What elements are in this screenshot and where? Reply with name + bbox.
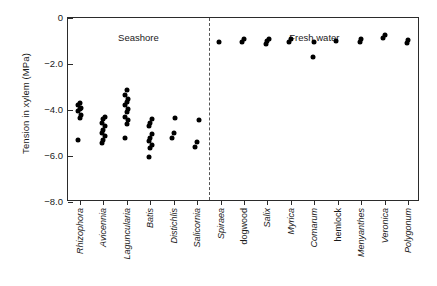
data-point: [149, 117, 154, 122]
data-point: [406, 37, 411, 42]
y-tick: [68, 110, 73, 111]
data-point: [173, 116, 178, 121]
x-tick: [314, 200, 315, 205]
data-point: [170, 135, 175, 140]
data-point: [76, 137, 81, 142]
data-point: [102, 114, 107, 119]
y-tick-label: −4.0: [44, 105, 63, 115]
data-point: [196, 118, 201, 123]
x-tick-label-salix: Salix: [263, 208, 272, 228]
x-tick-label-avicennia: Avicennia: [99, 208, 108, 247]
group-divider: [209, 18, 210, 200]
y-tick-label: 0: [58, 13, 63, 23]
y-tick: [68, 202, 73, 203]
y-axis-title: Tension in xylem (MPa): [20, 9, 31, 199]
y-tick: [68, 156, 73, 157]
x-tick: [244, 200, 245, 205]
data-point: [77, 101, 82, 106]
x-tick: [221, 200, 222, 205]
plot-area: 0−2.0−4.0−6.0−8.0 RhizophoraAvicenniaLag…: [67, 17, 419, 201]
x-tick-label-myrica: Myrica: [286, 208, 295, 235]
data-point: [312, 40, 317, 45]
x-tick-label-veronica: Veronica: [380, 208, 389, 243]
x-tick: [127, 200, 128, 205]
x-tick: [267, 200, 268, 205]
x-tick-label-dogwood: dogwood: [240, 208, 249, 245]
x-tick: [80, 200, 81, 205]
x-tick: [361, 200, 362, 205]
x-tick-label-polygonum: Polygonum: [404, 208, 413, 253]
data-point: [123, 114, 128, 119]
x-tick: [174, 200, 175, 205]
data-point: [171, 131, 176, 136]
data-point: [288, 36, 293, 41]
data-point: [310, 55, 315, 60]
y-tick: [68, 18, 73, 19]
y-tick-label: −6.0: [44, 151, 63, 161]
y-tick-label: −8.0: [44, 197, 63, 207]
data-point: [193, 144, 198, 149]
x-tick: [385, 200, 386, 205]
data-point: [334, 39, 339, 44]
y-tick-label: −2.0: [44, 59, 63, 69]
data-point: [359, 36, 364, 41]
data-point: [123, 93, 128, 98]
data-point: [123, 135, 128, 140]
data-point: [382, 32, 387, 37]
x-tick: [103, 200, 104, 205]
x-tick-label-comarum: Comarum: [310, 208, 319, 248]
x-tick-label-batis: Batis: [146, 208, 155, 228]
x-tick: [291, 200, 292, 205]
x-tick-label-hemlock: hemlock: [333, 208, 342, 242]
x-tick-label-distichlis: Distichlis: [169, 208, 178, 244]
data-point: [216, 40, 221, 45]
x-tick-label-laguncularia: Laguncularia: [122, 208, 131, 260]
x-tick: [150, 200, 151, 205]
data-point: [149, 132, 154, 137]
data-point: [146, 155, 151, 160]
x-tick-label-rhizophora: Rhizophora: [75, 208, 84, 254]
x-tick-label-menyanthes: Menyanthes: [357, 208, 366, 257]
group-header-seashore: Seashore: [118, 32, 159, 43]
x-tick: [197, 200, 198, 205]
data-point: [124, 88, 129, 93]
x-tick-label-spiraea: Spiraea: [216, 208, 225, 239]
data-point: [267, 36, 272, 41]
data-point: [242, 36, 247, 41]
y-tick: [68, 64, 73, 65]
data-point: [195, 140, 200, 145]
x-tick: [408, 200, 409, 205]
figure: Tension in xylem (MPa) 0−2.0−4.0−6.0−8.0…: [0, 0, 437, 286]
x-tick: [338, 200, 339, 205]
x-tick-label-salicornia: Salicornia: [193, 208, 202, 248]
